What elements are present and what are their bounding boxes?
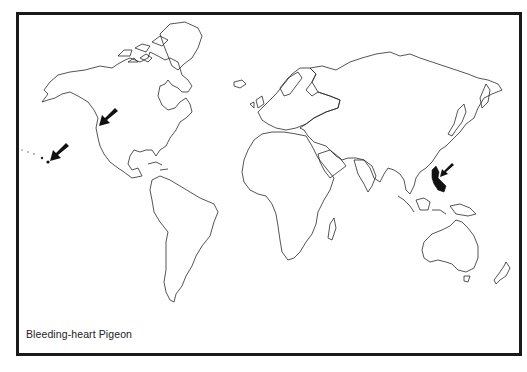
- madagascar-outline: [328, 218, 336, 240]
- world-map: [0, 0, 527, 372]
- europe-outline: [258, 68, 340, 130]
- arctic-islands-outline: [118, 36, 168, 62]
- south-america-outline: [150, 176, 218, 302]
- tasmania-outline: [464, 276, 470, 282]
- iceland-outline: [234, 80, 246, 88]
- indonesia-outline: [398, 196, 476, 216]
- philippines-arrow: [440, 163, 454, 177]
- british-isles-outline: [250, 96, 264, 108]
- india-outline: [354, 160, 376, 192]
- greenland-outline: [160, 22, 202, 70]
- map-caption: Bleeding-heart Pigeon: [26, 328, 132, 340]
- japan-outline: [448, 104, 466, 136]
- asia-outline: [300, 52, 502, 194]
- california-arrow: [99, 108, 118, 126]
- north-america-outline: [42, 52, 192, 178]
- hawaii-arrow: [50, 143, 69, 161]
- new-zealand-outline: [494, 262, 510, 284]
- caribbean-outline: [148, 162, 168, 170]
- hawaii-islands: [21, 149, 49, 163]
- arabia-outline: [318, 150, 346, 178]
- australia-outline: [422, 220, 478, 272]
- philippines-range: [432, 166, 446, 192]
- africa-outline: [242, 132, 334, 260]
